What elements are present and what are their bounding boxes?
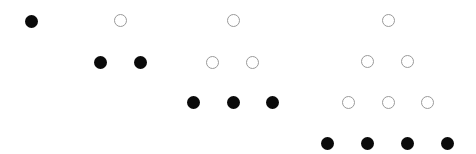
open-dot — [342, 96, 355, 109]
figure-2 — [0, 0, 476, 154]
open-dot — [382, 14, 395, 27]
filled-dot — [94, 56, 107, 69]
open-dot — [246, 56, 259, 69]
open-dot — [421, 96, 434, 109]
open-dot — [401, 55, 414, 68]
figure-1 — [0, 0, 476, 154]
filled-dot — [187, 96, 200, 109]
open-dot — [227, 14, 240, 27]
filled-dot — [401, 137, 414, 150]
figure-4 — [0, 0, 476, 154]
open-dot — [382, 96, 395, 109]
figure-3 — [0, 0, 476, 154]
filled-dot — [321, 137, 334, 150]
filled-dot — [361, 137, 374, 150]
filled-dot — [134, 56, 147, 69]
filled-dot — [441, 137, 454, 150]
open-dot — [206, 56, 219, 69]
filled-dot — [266, 96, 279, 109]
filled-dot — [25, 15, 38, 28]
filled-dot — [227, 96, 240, 109]
open-dot — [114, 14, 127, 27]
triangular-numbers-diagram — [0, 0, 476, 154]
open-dot — [361, 55, 374, 68]
